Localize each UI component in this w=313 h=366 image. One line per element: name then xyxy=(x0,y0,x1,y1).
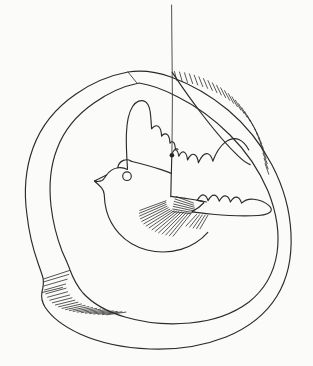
tail-junction-hatching xyxy=(186,214,208,228)
hoop-band-cap-top xyxy=(128,72,137,83)
bird-tail xyxy=(192,195,271,216)
bird-head-top xyxy=(118,160,131,168)
bird-back-line xyxy=(171,156,172,196)
bird-tail-underside xyxy=(192,200,204,211)
left-wing xyxy=(126,101,178,169)
hanging-string-lower xyxy=(172,72,173,153)
artboard: Bird in Hoop dove suspended inside a cir… xyxy=(0,0,313,366)
drawing-canvas xyxy=(0,0,313,366)
bird-body-outline xyxy=(95,168,208,252)
hanging-string xyxy=(172,5,173,72)
bird-eye xyxy=(123,172,132,181)
hanging-string-group xyxy=(170,5,175,158)
bird-shoulder-line xyxy=(131,161,171,173)
